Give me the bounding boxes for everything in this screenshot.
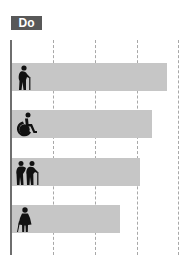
wheelchair-icon: [15, 112, 41, 137]
bar-elderly-cane: [12, 63, 167, 91]
bar-wheelchair: [12, 110, 152, 138]
elderly-cane-icon: [15, 65, 41, 90]
chart-title-label: Do: [11, 16, 42, 30]
bar-elderly-couple: [12, 158, 140, 186]
bar-elderly-woman: [12, 205, 120, 233]
gridline-4: [178, 40, 179, 255]
elderly-woman-icon: [15, 207, 41, 232]
elderly-couple-icon: [15, 160, 49, 185]
